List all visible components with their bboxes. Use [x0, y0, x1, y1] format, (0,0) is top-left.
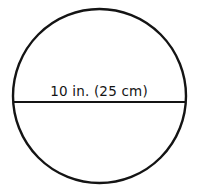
- circle-outline: [13, 9, 186, 183]
- circle-diameter-figure: 10 in. (25 cm) 10 in. (25 cm): [0, 0, 198, 192]
- diagram-canvas: [0, 0, 198, 192]
